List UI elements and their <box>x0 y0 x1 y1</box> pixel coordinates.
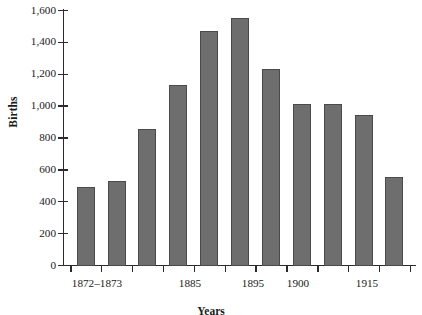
bar <box>385 177 403 265</box>
y-tick-200 <box>58 233 68 234</box>
x-tick <box>194 265 195 272</box>
y-tick-600 <box>58 169 68 170</box>
y-tick-1000 <box>58 105 68 106</box>
y-tick-label: 1,400 <box>4 36 56 46</box>
x-axis-title: Years <box>0 305 422 315</box>
bar <box>293 104 311 266</box>
y-tick-label: 400 <box>4 196 56 206</box>
bar <box>108 181 126 265</box>
x-tick <box>286 265 287 272</box>
y-tick-label-wrap: 200 <box>0 228 56 238</box>
y-tick-label: 200 <box>4 228 56 238</box>
bar <box>77 187 95 265</box>
y-tick-label: 800 <box>4 132 56 142</box>
x-tick <box>70 265 71 272</box>
y-tick-label: 0 <box>4 260 56 270</box>
y-tick-label-wrap: 1,600 <box>0 5 56 15</box>
bar <box>262 69 280 265</box>
bar <box>169 85 187 266</box>
y-tick-400 <box>58 201 68 202</box>
bar <box>200 31 218 265</box>
x-tick-label: 1900 <box>258 277 338 289</box>
x-tick <box>410 265 411 272</box>
y-tick-1600 <box>58 10 68 11</box>
x-tick <box>317 265 318 272</box>
bar <box>355 115 373 266</box>
y-tick-1200 <box>58 74 68 75</box>
bar <box>324 104 342 266</box>
y-tick-label: 1,200 <box>4 68 56 78</box>
x-tick <box>132 265 133 272</box>
y-tick-label-wrap: 400 <box>0 196 56 206</box>
y-tick-0 <box>58 265 68 266</box>
y-tick-label: 1,600 <box>4 5 56 15</box>
x-tick <box>163 265 164 272</box>
bar-chart: Births 1,6001,4001,2001,0008006004002000… <box>0 0 422 315</box>
y-tick-label-wrap: 0 <box>0 260 56 270</box>
x-tick <box>348 265 349 272</box>
y-tick-label-wrap: 800 <box>0 132 56 142</box>
y-tick-label: 1,000 <box>4 100 56 110</box>
x-tick <box>255 265 256 272</box>
y-tick-label-wrap: 1,200 <box>0 68 56 78</box>
x-tick <box>379 265 380 272</box>
y-tick-1400 <box>58 42 68 43</box>
bar <box>138 129 156 265</box>
y-tick-label-wrap: 1,400 <box>0 36 56 46</box>
bar <box>231 18 249 266</box>
x-tick-label: 1915 <box>327 277 407 289</box>
y-tick-800 <box>58 137 68 138</box>
y-tick-label-wrap: 600 <box>0 164 56 174</box>
x-tick <box>225 265 226 272</box>
x-tick <box>101 265 102 272</box>
x-tick-label: 1872–1873 <box>57 277 137 289</box>
y-tick-label: 600 <box>4 164 56 174</box>
y-tick-label-wrap: 1,000 <box>0 100 56 110</box>
